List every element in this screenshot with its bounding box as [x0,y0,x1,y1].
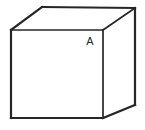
top-back-edge [42,7,135,8]
vertex-label-a: A [86,35,94,47]
figure-container: A [0,0,145,130]
cube-diagram: A [0,0,145,130]
